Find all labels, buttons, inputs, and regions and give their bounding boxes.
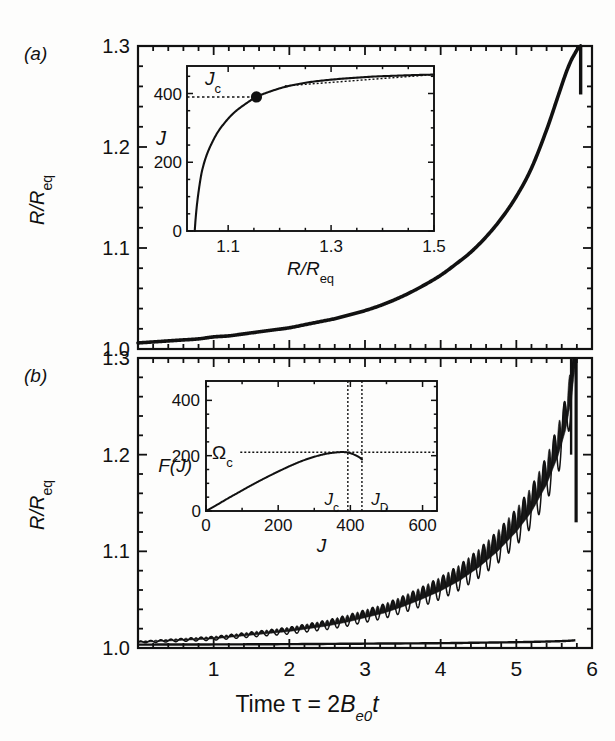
inset-a-xtick-label: 1.5 xyxy=(422,237,446,256)
panel-a-ytick-label: 1.3 xyxy=(102,35,130,57)
figure-svg: 1.01.11.21.3(a)R/Req02004001.11.31.5JR/R… xyxy=(0,0,615,741)
panel-b-label: (b) xyxy=(24,365,47,386)
inset-b-xlabel: J xyxy=(316,535,327,556)
panel-b-xtick-label: 4 xyxy=(435,657,447,680)
panel-b-xtick-label: 6 xyxy=(586,657,598,680)
panel-b-xtick-label: 2 xyxy=(283,657,295,680)
inset-b-ylabel: F(J) xyxy=(158,455,192,476)
panel-b-ytick-label: 1.2 xyxy=(102,444,130,466)
inset-b-xtick-label: 600 xyxy=(408,516,436,535)
panel-b-xtick-label: 3 xyxy=(359,657,371,680)
inset-a-xtick-label: 1.3 xyxy=(319,237,343,256)
inset-b-ytick-label: 0 xyxy=(192,502,201,521)
panel-b-xtick-label: 1 xyxy=(208,657,220,680)
inset-b-xtick-label: 0 xyxy=(201,516,210,535)
figure-root: 1.01.11.21.3(a)R/Req02004001.11.31.5JR/R… xyxy=(0,0,615,741)
panel-b-xtick-label: 5 xyxy=(510,657,522,680)
panel-a-ytick-label: 1.2 xyxy=(102,136,130,158)
panel-b-ytick-label: 1.1 xyxy=(102,540,130,562)
inset-b-xtick-label: 200 xyxy=(264,516,292,535)
inset-a-critical-point-marker xyxy=(251,91,262,102)
panel-b-ytick-label: 1.0 xyxy=(102,637,130,659)
panel-b-ytick-label: 1.3 xyxy=(102,347,130,369)
inset-b-xtick-label: 400 xyxy=(336,516,364,535)
inset-a-ytick-label: 400 xyxy=(154,85,182,104)
panel-a-inset-frame xyxy=(187,66,434,231)
panel-a-ytick-label: 1.1 xyxy=(102,237,130,259)
panel-a-label: (a) xyxy=(24,43,47,64)
inset-b-ytick-label: 400 xyxy=(172,391,200,410)
inset-a-ylabel: J xyxy=(155,127,167,149)
inset-a-ytick-label: 0 xyxy=(173,222,182,241)
inset-a-xtick-label: 1.1 xyxy=(216,237,240,256)
inset-a-ytick-label: 200 xyxy=(154,153,182,172)
